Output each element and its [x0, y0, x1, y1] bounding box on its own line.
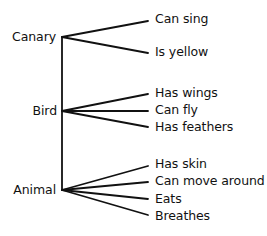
property-can-sing: Can sing [155, 12, 208, 26]
edge-bird-has-wings [62, 94, 148, 111]
semantic-network-diagram: Canary Bird Animal Can sing Is yellow Ha… [0, 0, 267, 236]
property-has-feathers: Has feathers [155, 120, 233, 134]
property-has-wings: Has wings [155, 86, 218, 100]
node-canary: Canary [4, 30, 56, 44]
property-has-skin: Has skin [155, 157, 207, 171]
node-bird: Bird [4, 104, 57, 118]
property-is-yellow: Is yellow [155, 45, 208, 59]
property-breathes: Breathes [155, 209, 210, 223]
property-can-fly: Can fly [155, 103, 198, 117]
edge-canary-can-sing [62, 21, 148, 37]
node-animal: Animal [4, 183, 56, 197]
edge-canary-is-yellow [62, 37, 148, 53]
property-eats: Eats [155, 192, 182, 206]
edge-bird-has-feathers [62, 111, 148, 127]
property-can-move-around: Can move around [155, 174, 265, 188]
